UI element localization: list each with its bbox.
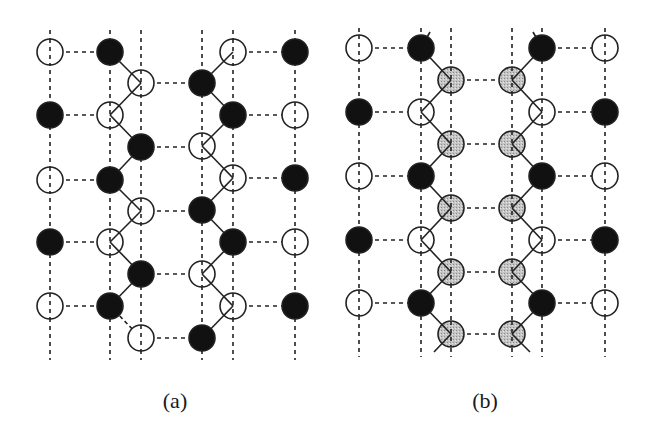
black-atom bbox=[128, 261, 154, 287]
black-atom bbox=[529, 35, 555, 61]
panel-b bbox=[346, 28, 618, 357]
black-atom bbox=[97, 39, 123, 65]
black-atom bbox=[408, 35, 434, 61]
black-atom bbox=[97, 167, 123, 193]
black-atom bbox=[282, 293, 308, 319]
panel-a bbox=[37, 30, 308, 360]
lattice-diagram bbox=[0, 0, 656, 436]
panel-b-caption: (b) bbox=[472, 388, 498, 414]
black-atom bbox=[37, 229, 63, 255]
black-atom bbox=[529, 290, 555, 316]
black-atom bbox=[37, 102, 63, 128]
black-atom bbox=[408, 163, 434, 189]
black-atom bbox=[220, 102, 246, 128]
black-atom bbox=[97, 293, 123, 319]
black-atom bbox=[592, 227, 618, 253]
black-atom bbox=[346, 99, 372, 125]
black-atom bbox=[128, 134, 154, 160]
panel-a-caption: (a) bbox=[163, 388, 187, 414]
black-atom bbox=[220, 229, 246, 255]
black-atom bbox=[189, 197, 215, 223]
black-atom bbox=[189, 70, 215, 96]
black-atom bbox=[408, 290, 434, 316]
black-atom bbox=[346, 227, 372, 253]
black-atom bbox=[189, 325, 215, 351]
black-atom bbox=[529, 163, 555, 189]
figure: (a) (b) bbox=[0, 0, 656, 436]
black-atom bbox=[282, 39, 308, 65]
black-atom bbox=[592, 99, 618, 125]
black-atom bbox=[282, 165, 308, 191]
